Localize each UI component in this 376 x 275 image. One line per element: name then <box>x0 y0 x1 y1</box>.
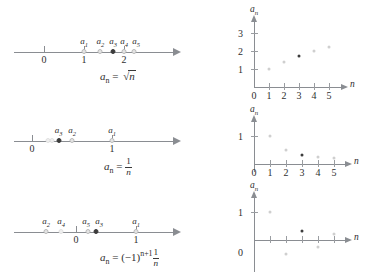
point-label: a1 <box>132 216 140 228</box>
point-label: a1 <box>108 125 116 137</box>
sequence-point <box>111 49 116 54</box>
x-tick-label: 3 <box>300 167 305 178</box>
data-point <box>301 153 304 156</box>
y-tick-label: 1 <box>238 64 243 75</box>
x-axis-name: n <box>354 156 359 166</box>
tick-label: 1 <box>82 54 87 65</box>
point-label: a4 <box>120 36 128 48</box>
arrow-right-icon <box>341 84 348 90</box>
tick-label: 1 <box>134 234 139 245</box>
tick-mark <box>76 226 77 233</box>
data-point <box>298 55 301 58</box>
y-axis <box>254 22 255 88</box>
data-point <box>317 156 320 159</box>
x-tick <box>269 83 270 90</box>
x-tick <box>302 236 303 243</box>
sequence-point <box>59 229 64 234</box>
arrow-up-icon <box>251 115 257 122</box>
number-line-row-2: 0 1 a1 a2 a3 an = 1n <box>14 105 190 179</box>
x-tick-label: 2 <box>282 90 287 101</box>
arrow-up-icon <box>251 191 257 198</box>
point-label: a4 <box>57 216 65 228</box>
formula-one-over-n: an = 1n <box>104 157 132 177</box>
data-point <box>328 45 331 48</box>
y-axis-name: an <box>250 180 258 192</box>
x-tick <box>286 160 287 167</box>
y-axis-name: an <box>250 4 258 16</box>
tick-label: 0 <box>42 54 47 65</box>
x-tick-label: 5 <box>332 167 337 178</box>
sequence-point <box>134 229 139 234</box>
x-tick <box>302 160 303 167</box>
sequence-point <box>70 138 75 143</box>
tick-label: 0 <box>30 143 35 154</box>
data-point <box>301 229 304 232</box>
sequence-point <box>94 229 99 234</box>
point-label: a5 <box>82 216 90 228</box>
point-label: a3 <box>109 36 117 48</box>
sequence-point <box>56 138 61 143</box>
x-tick-label: 4 <box>316 167 321 178</box>
data-point <box>313 50 316 53</box>
sequence-point <box>122 49 127 54</box>
y-tick-label: 1 <box>238 207 243 218</box>
data-point <box>333 157 336 160</box>
y-tick <box>251 212 258 213</box>
x-axis <box>254 164 346 165</box>
x-tick-label: 2 <box>284 167 289 178</box>
y-axis-name: an <box>250 104 258 116</box>
sequence-point <box>44 229 49 234</box>
formula-alternating: an = (−1)n+11n <box>100 248 159 268</box>
sequences-figure: 0 1 2 a1 a2 a3 a4 a5 an = √n an n 1 2 3 … <box>0 0 376 275</box>
x-tick <box>284 83 285 90</box>
sequence-point <box>46 138 51 143</box>
data-point <box>285 149 288 152</box>
number-line-row-1: 0 1 2 a1 a2 a3 a4 a5 an = √n <box>14 16 190 90</box>
formula-sqrt-n: an = √n <box>100 70 135 85</box>
y-tick <box>251 51 258 52</box>
y-tick-label: 1 <box>238 131 243 142</box>
data-point <box>269 135 272 138</box>
arrow-right-icon <box>173 228 181 236</box>
tick-label: 2 <box>122 54 127 65</box>
x-axis <box>254 240 346 241</box>
sequence-point <box>82 49 87 54</box>
data-point <box>269 211 272 214</box>
x-tick-label: 4 <box>312 90 317 101</box>
point-label: a2 <box>97 36 105 48</box>
x-tick-label: 0 <box>252 90 257 101</box>
arrow-right-icon <box>345 237 352 243</box>
arrow-right-icon <box>345 161 352 167</box>
x-tick <box>334 236 335 243</box>
x-tick <box>329 83 330 90</box>
point-label: a3 <box>55 125 63 137</box>
number-line-axis <box>14 141 174 142</box>
y-tick-label: 3 <box>238 28 243 39</box>
data-point <box>268 68 271 71</box>
point-label: a1 <box>80 36 88 48</box>
y-tick-label: 2 <box>238 46 243 57</box>
x-tick <box>270 160 271 167</box>
arrow-up-icon <box>251 15 257 22</box>
sequence-point <box>86 229 91 234</box>
y-tick <box>251 33 258 34</box>
tick-mark <box>32 135 33 142</box>
y-tick <box>251 69 258 70</box>
x-tick <box>318 236 319 243</box>
x-tick <box>318 160 319 167</box>
tick-label: 1 <box>110 143 115 154</box>
point-label: a2 <box>68 125 76 137</box>
x-tick <box>270 236 271 243</box>
data-point <box>333 233 336 236</box>
number-line-row-3: 0 1 a2 a4 a5 a3 a1 an = (−1)n+11n <box>14 196 190 270</box>
x-tick-label: 5 <box>327 90 332 101</box>
y-tick <box>251 136 258 137</box>
tick-label: 0 <box>74 234 79 245</box>
data-point <box>283 60 286 63</box>
tick-mark <box>44 46 45 53</box>
point-label: a3 <box>95 216 103 228</box>
scatter-plot-alternating: an n 1 0 <box>232 186 372 275</box>
point-label: a5 <box>132 36 140 48</box>
x-tick <box>299 83 300 90</box>
scatter-plot-sqrt-n: an n 1 2 3 0 1 2 3 4 5 <box>232 8 372 100</box>
